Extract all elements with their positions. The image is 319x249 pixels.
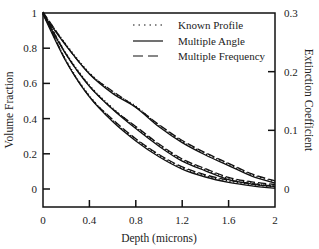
y2-tick-label: 0.1: [284, 124, 298, 136]
svg-text:Known Profile: Known Profile: [178, 19, 243, 31]
y-axis-right: 00.10.20.3: [268, 7, 298, 195]
x-axis-title: Depth (microns): [121, 232, 197, 245]
y-axis-title: Volume Fraction: [3, 71, 15, 148]
y2-tick-label: 0: [284, 183, 290, 195]
x-tick-label: 1.2: [175, 214, 189, 226]
x-tick-label: 1.6: [222, 214, 236, 226]
y-tick-label: 0.4: [23, 113, 37, 125]
svg-text:Multiple Frequency: Multiple Frequency: [178, 50, 266, 62]
svg-text:Multiple Angle: Multiple Angle: [178, 35, 245, 47]
y-tick-label: 0.8: [23, 42, 37, 54]
x-tick-label: 0.8: [129, 214, 143, 226]
y-tick-label: 0: [32, 183, 38, 195]
legend: Known Profile Multiple Angle Multiple Fr…: [133, 19, 266, 62]
x-axis: 00.40.81.21.62: [40, 200, 278, 226]
x-tick-label: 0: [40, 214, 46, 226]
y-tick-label: 1: [32, 7, 38, 19]
y-axis-left: 00.20.40.60.81: [23, 7, 50, 195]
y2-tick-label: 0.3: [284, 7, 298, 19]
y-tick-label: 0.6: [23, 77, 37, 89]
legend-item-multiple-frequency: Multiple Frequency: [133, 50, 266, 62]
x-tick-label: 2: [272, 214, 278, 226]
chart: 00.20.40.60.81 00.10.20.3 00.40.81.21.62…: [0, 0, 319, 249]
y2-axis-title: Extinction Coefficient: [303, 49, 315, 152]
x-tick-label: 0.4: [83, 214, 97, 226]
legend-item-known-profile: Known Profile: [133, 19, 243, 31]
legend-item-multiple-angle: Multiple Angle: [133, 35, 245, 47]
y-tick-label: 0.2: [23, 148, 37, 160]
y2-tick-label: 0.2: [284, 66, 298, 78]
